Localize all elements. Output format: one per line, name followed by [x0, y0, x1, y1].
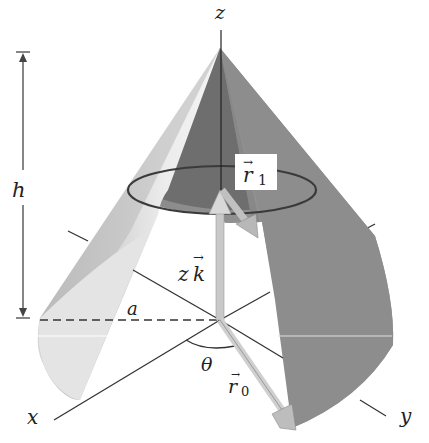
radius-label: a	[127, 298, 138, 319]
y-axis-line-outer	[360, 400, 386, 416]
vector-zk-accent: →	[193, 250, 204, 265]
y-axis-label: y	[399, 404, 412, 428]
vector-zk-k: k	[193, 262, 205, 286]
z-axis-label: z	[214, 1, 226, 23]
vector-r0-accent: →	[231, 368, 240, 381]
x-axis-label: x	[27, 405, 38, 429]
vector-r1-sub: 1	[258, 172, 267, 188]
r1-label-box	[235, 154, 277, 190]
vector-zk-z: z	[177, 262, 189, 286]
vector-zk-shaft	[216, 210, 224, 320]
height-arrow-down-icon	[19, 308, 27, 317]
vector-r0-sub: 0	[241, 384, 249, 399]
height-arrow-up-icon	[19, 53, 27, 62]
axis-back-left-segment	[68, 231, 88, 241]
vector-r1-accent: →	[243, 155, 253, 169]
theta-label: θ	[201, 353, 213, 375]
height-label: h	[12, 178, 26, 202]
cone-diagram: z h a θ x y z k → r 1 → r 0 →	[0, 0, 429, 443]
cone	[38, 48, 393, 428]
